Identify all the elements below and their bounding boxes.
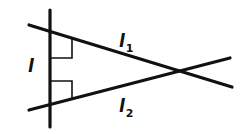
label-l: l	[28, 56, 35, 76]
line-l2	[29, 58, 230, 110]
label-l1: l1	[119, 31, 133, 55]
right-angle-mark-top	[50, 39, 72, 58]
diagram-canvas: l l1 l2	[0, 0, 249, 134]
label-l2: l2	[119, 96, 133, 120]
line-l1	[29, 25, 232, 87]
perpendicular-lines-diagram: l l1 l2	[0, 0, 249, 134]
right-angle-mark-bottom	[50, 81, 72, 98]
